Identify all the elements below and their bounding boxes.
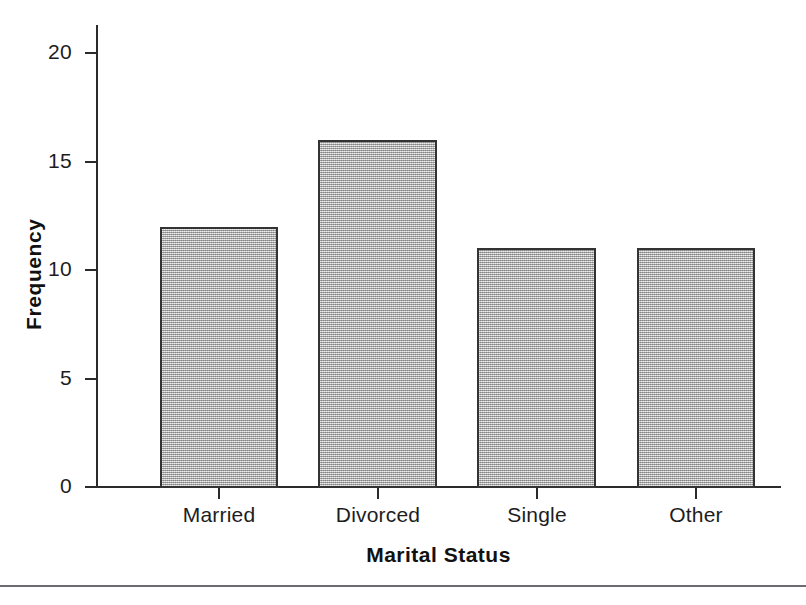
y-axis-tick-mark	[85, 161, 96, 163]
x-axis-tick-label: Other	[606, 503, 786, 527]
y-axis-tick-mark	[85, 486, 96, 488]
bar	[318, 140, 437, 488]
x-axis-tick-label: Divorced	[288, 503, 468, 527]
y-axis-tick-mark	[85, 269, 96, 271]
y-axis-tick: 5	[0, 378, 96, 380]
y-axis-tick-label: 0	[14, 475, 72, 496]
y-axis-tick-label: 5	[14, 367, 72, 388]
y-axis-tick: 15	[0, 161, 96, 163]
x-axis-tick-label: Married	[129, 503, 309, 527]
bar-chart-figure: 05101520 MarriedDivorcedSingleOther Freq…	[0, 0, 806, 605]
y-axis-tick-mark	[85, 52, 96, 54]
x-axis-tick-mark	[218, 488, 220, 499]
y-axis-tick-label: 20	[14, 41, 72, 62]
y-axis-tick: 0	[0, 486, 96, 488]
bar	[637, 248, 755, 488]
x-axis-tick-mark	[377, 488, 379, 499]
x-axis-tick-mark	[536, 488, 538, 499]
x-axis-tick-label: Single	[447, 503, 627, 527]
y-axis-line	[96, 25, 98, 488]
y-axis-tick: 10	[0, 269, 96, 271]
page-divider	[0, 585, 806, 587]
y-axis-tick: 20	[0, 52, 96, 54]
y-axis-title: Frequency	[22, 130, 46, 330]
y-axis-tick-mark	[85, 378, 96, 380]
x-axis-tick-mark	[695, 488, 697, 499]
bar	[160, 227, 278, 488]
x-axis-title: Marital Status	[96, 543, 781, 567]
bar	[477, 248, 596, 488]
